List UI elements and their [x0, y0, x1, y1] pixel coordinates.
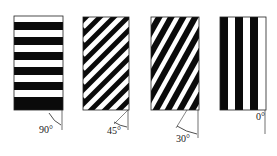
panel-30-degrees: 30°	[140, 5, 210, 144]
diagonal-stripes-steep	[140, 5, 210, 128]
angle-line	[114, 110, 128, 124]
angle-label-90: 90°	[39, 124, 53, 135]
angle-label-45: 45°	[107, 125, 121, 136]
panel-90-degrees: 90°	[14, 16, 63, 135]
angle-label-30: 30°	[176, 133, 190, 144]
horizontal-stripes	[14, 16, 63, 110]
vertical-stripes	[220, 17, 266, 110]
angle-line	[176, 110, 187, 128]
angle-label-0: 0°	[256, 111, 265, 122]
panel-45-degrees: 45°	[83, 13, 139, 146]
panel-0-degrees: 0°	[220, 17, 266, 134]
stripe-angle-figure: 90° 45°	[0, 0, 277, 156]
